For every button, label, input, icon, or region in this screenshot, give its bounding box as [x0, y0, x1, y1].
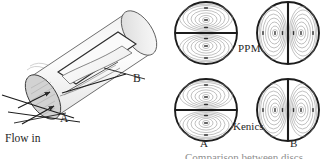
column-label-b: B	[290, 138, 297, 149]
pipe-diagram-panel: Flow in A B	[0, 0, 163, 159]
flow-in-label: Flow in	[5, 133, 40, 145]
section-disc-ppm-a	[175, 2, 237, 64]
pipe-plane-a-label: A	[60, 113, 68, 125]
row-label-kenics: Kenics	[233, 121, 264, 132]
pipe-plane-b-label: B	[133, 73, 141, 85]
section-disc-kenics-b	[257, 79, 319, 141]
figure-root: Flow in A B	[0, 0, 322, 159]
figure-caption: Comparison between discs	[185, 152, 303, 159]
section-disc-kenics-a	[175, 79, 237, 141]
section-disc-ppm-b	[257, 2, 319, 64]
cross-sections-svg	[163, 0, 322, 159]
cross-sections-panel	[163, 0, 322, 159]
row-label-ppm: PPM	[238, 43, 261, 54]
column-label-a: A	[200, 138, 208, 149]
